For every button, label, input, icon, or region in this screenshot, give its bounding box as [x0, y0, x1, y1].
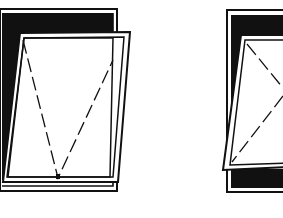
window-figure-side-hung [223, 10, 283, 192]
window-figure-tilt [0, 9, 130, 191]
shadow-fill-bottom [231, 169, 283, 188]
diagram-canvas [0, 0, 283, 218]
